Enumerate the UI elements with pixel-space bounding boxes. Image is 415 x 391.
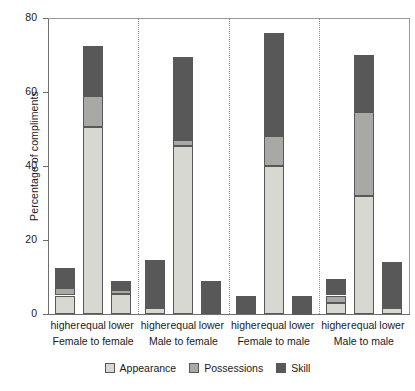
- bar-segment-appearance: [111, 294, 131, 314]
- x-group-label: Female to male: [229, 335, 319, 347]
- bar-segment-possessions: [382, 307, 402, 309]
- legend-label: Possessions: [204, 362, 263, 374]
- bar-female-to-female-equal: [83, 18, 103, 314]
- bar-segment-skill: [354, 55, 374, 112]
- legend: AppearancePossessionsSkill: [0, 362, 415, 374]
- bar-female-to-male-higher: [236, 18, 256, 314]
- bar-male-to-male-equal: [354, 18, 374, 314]
- bar-segment-appearance: [173, 146, 193, 314]
- y-axis-tick-label: 80: [7, 11, 37, 23]
- y-axis-tick-label: 20: [7, 233, 37, 245]
- x-group-label: Female to female: [48, 335, 138, 347]
- bar-segment-possessions: [173, 140, 193, 146]
- stacked-bar-chart: Percentage of compliments 020406080 high…: [0, 0, 415, 391]
- bar-male-to-female-lower: [201, 18, 221, 314]
- bar-segment-possessions: [145, 307, 165, 309]
- legend-label: Appearance: [120, 362, 177, 374]
- bar-male-to-female-equal: [173, 18, 193, 314]
- bar-segment-appearance: [55, 296, 75, 315]
- y-axis-line: [48, 18, 49, 315]
- legend-swatch-possessions: [189, 363, 199, 373]
- bar-segment-skill: [173, 57, 193, 140]
- legend-item-possessions: Possessions: [189, 362, 263, 374]
- bar-segment-possessions: [354, 112, 374, 195]
- bar-segment-skill: [201, 281, 221, 314]
- bar-female-to-female-lower: [111, 18, 131, 314]
- y-axis-tick-label: 60: [7, 85, 37, 97]
- x-tick-label-lower: lower: [370, 319, 414, 331]
- legend-swatch-appearance: [105, 363, 115, 373]
- x-group-label: Male to female: [138, 335, 228, 347]
- bar-segment-skill: [83, 46, 103, 96]
- bar-segment-skill: [236, 296, 256, 312]
- y-axis-tick-label: 0: [7, 307, 37, 319]
- bar-male-to-female-higher: [145, 18, 165, 314]
- legend-item-appearance: Appearance: [105, 362, 177, 374]
- bar-segment-appearance: [354, 196, 374, 314]
- bar-segment-appearance: [83, 127, 103, 314]
- bar-segment-appearance: [264, 166, 284, 314]
- bar-segment-skill: [111, 281, 131, 290]
- bar-segment-skill: [264, 33, 284, 137]
- y-axis-tick: [43, 166, 48, 167]
- bar-segment-possessions: [264, 136, 284, 166]
- y-axis-tick-label: 40: [7, 159, 37, 171]
- bar-segment-skill: [145, 260, 165, 306]
- group-divider: [319, 18, 320, 314]
- bar-segment-possessions: [326, 296, 346, 303]
- bar-segment-possessions: [83, 96, 103, 127]
- bar-female-to-male-lower: [292, 18, 312, 314]
- plot-right-border: [409, 18, 410, 314]
- bar-segment-skill: [382, 262, 402, 306]
- bar-female-to-female-higher: [55, 18, 75, 314]
- bar-male-to-male-higher: [326, 18, 346, 314]
- group-divider: [138, 18, 139, 314]
- legend-swatch-skill: [276, 363, 286, 373]
- bar-female-to-male-equal: [264, 18, 284, 314]
- legend-label: Skill: [291, 362, 310, 374]
- y-axis-tick: [43, 240, 48, 241]
- bar-segment-possessions: [111, 290, 131, 294]
- bar-segment-skill: [326, 279, 346, 296]
- bar-male-to-male-lower: [382, 18, 402, 314]
- y-axis-tick: [43, 92, 48, 93]
- bar-segment-appearance: [145, 308, 165, 314]
- x-axis-line: [48, 314, 410, 315]
- bar-segment-appearance: [382, 308, 402, 314]
- bar-segment-possessions: [55, 288, 75, 295]
- bar-segment-possessions: [292, 312, 312, 314]
- bar-segment-possessions: [236, 311, 256, 313]
- bar-segment-appearance: [326, 303, 346, 314]
- x-group-label: Male to male: [319, 335, 409, 347]
- group-divider: [229, 18, 230, 314]
- bar-segment-skill: [55, 268, 75, 288]
- legend-item-skill: Skill: [276, 362, 310, 374]
- bar-segment-skill: [292, 296, 312, 313]
